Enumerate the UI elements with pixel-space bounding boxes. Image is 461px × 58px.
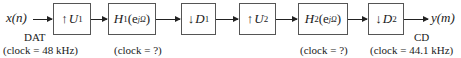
filter-h1-block: H1(ejΩ) bbox=[108, 3, 156, 35]
arrow-input bbox=[33, 19, 52, 20]
up-arrow-icon: ↑ bbox=[61, 11, 68, 27]
output-signal-label: y(m) bbox=[431, 10, 455, 26]
down-arrow-icon: ↓ bbox=[375, 11, 382, 27]
source-name-label: DAT bbox=[24, 31, 45, 43]
upsampler-2-block: ↑U2 bbox=[239, 3, 276, 35]
arrow-2 bbox=[156, 19, 180, 20]
down-arrow-icon: ↓ bbox=[188, 11, 195, 27]
dest-name-label: CD bbox=[414, 31, 429, 43]
source-clock-label: (clock = 48 kHz) bbox=[3, 44, 78, 56]
arrow-3 bbox=[216, 19, 238, 20]
dest-clock-label: (clock = 44.1 kHz) bbox=[370, 44, 453, 56]
h2-clock-label: (clock = ?) bbox=[300, 44, 348, 56]
downsampler-2-block: ↓D2 bbox=[368, 3, 404, 35]
arrow-1 bbox=[91, 19, 107, 20]
input-signal-label: x(n) bbox=[6, 10, 27, 26]
arrow-4 bbox=[276, 19, 297, 20]
filter-h2-block: H2(ejΩ) bbox=[298, 3, 348, 35]
h1-clock-label: (clock = ?) bbox=[114, 44, 162, 56]
upsampler-1-block: ↑U1 bbox=[53, 3, 91, 35]
arrow-5 bbox=[348, 19, 367, 20]
downsampler-1-block: ↓D1 bbox=[181, 3, 216, 35]
up-arrow-icon: ↑ bbox=[247, 11, 254, 27]
arrow-output bbox=[404, 19, 428, 20]
